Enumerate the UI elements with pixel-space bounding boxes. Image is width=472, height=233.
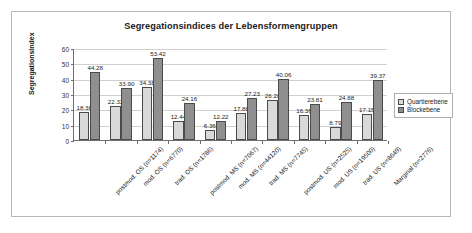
bar-blockebene[interactable]: [121, 88, 132, 140]
x-axis-tick: [325, 141, 326, 144]
bar-group: 22.3233.90: [105, 49, 136, 140]
x-axis-tick: [294, 141, 295, 144]
bar-quartierebene[interactable]: [173, 121, 184, 140]
chart-frame: Segregationsindices der Lebensformengrup…: [11, 11, 451, 217]
y-axis-tick-label: 50: [62, 61, 69, 68]
bar-value-label: 40.06: [276, 71, 291, 78]
bar-group: 8.7924.88: [325, 49, 356, 140]
bar-value-label: 44.28: [87, 64, 102, 71]
legend-swatch-icon: [398, 99, 404, 105]
bar-quartierebene[interactable]: [330, 127, 341, 140]
bar-blockebene[interactable]: [373, 80, 384, 140]
bar-group: 18.3844.28: [74, 49, 105, 140]
bar-quartierebene[interactable]: [267, 100, 278, 140]
plot-area: 605040302010018.3844.2822.3233.9034.3853…: [73, 49, 387, 141]
bar-value-label: 23.81: [307, 96, 322, 103]
bar-blockebene[interactable]: [278, 79, 289, 140]
bar-group: 16.3623.81: [294, 49, 325, 140]
y-axis-tick-label: 20: [62, 107, 69, 114]
bar-value-label: 24.88: [339, 94, 354, 101]
chart-title: Segregationsindices der Lebensformengrup…: [12, 21, 450, 31]
y-axis-tick-label: 0: [65, 138, 69, 145]
x-axis-tick: [357, 141, 358, 144]
bar-value-label: 8.79: [329, 119, 341, 126]
y-axis-tick-label: 10: [62, 122, 69, 129]
legend-label: Blockebene: [407, 106, 440, 113]
x-axis-tick: [168, 141, 169, 144]
bar-blockebene[interactable]: [310, 104, 321, 141]
bar-quartierebene[interactable]: [110, 106, 121, 140]
x-axis-tick: [200, 141, 201, 144]
legend-label: Quartierebene: [407, 98, 448, 105]
bar-quartierebene[interactable]: [142, 87, 153, 140]
y-axis-tick: [71, 141, 74, 142]
bar-group: 17.1539.37: [357, 49, 388, 140]
x-axis-tick: [388, 141, 389, 144]
bar-group: 12.4424.16: [168, 49, 199, 140]
x-axis-tick: [137, 141, 138, 144]
bar-blockebene[interactable]: [153, 58, 164, 140]
bar-value-label: 24.16: [182, 95, 197, 102]
x-axis-tick: [105, 141, 106, 144]
bar-quartierebene[interactable]: [236, 113, 247, 140]
bar-value-label: 6.36: [204, 122, 216, 129]
bar-value-label: 27.23: [244, 90, 259, 97]
bar-group: 34.3853.42: [137, 49, 168, 140]
bar-blockebene[interactable]: [216, 121, 227, 140]
bar-group: 6.3612.22: [200, 49, 231, 140]
y-axis-tick-label: 30: [62, 92, 69, 99]
bar-blockebene[interactable]: [184, 103, 195, 140]
bar-group: 17.8827.23: [231, 49, 262, 140]
bar-blockebene[interactable]: [247, 98, 258, 140]
bar-quartierebene[interactable]: [299, 115, 310, 140]
y-axis-tick-label: 60: [62, 46, 69, 53]
x-axis-tick: [231, 141, 232, 144]
y-axis-title: Segregationsindex: [28, 32, 35, 95]
bar-blockebene[interactable]: [90, 72, 101, 140]
bar-quartierebene[interactable]: [362, 114, 373, 140]
chart-legend: Quartierebene Blockebene: [394, 93, 453, 118]
bar-value-label: 39.37: [370, 72, 385, 79]
legend-item-quartierebene[interactable]: Quartierebene: [398, 98, 448, 105]
bar-quartierebene[interactable]: [205, 130, 216, 140]
bar-value-label: 33.90: [119, 80, 134, 87]
legend-item-blockebene[interactable]: Blockebene: [398, 106, 448, 113]
bar-group: 26.2840.06: [262, 49, 293, 140]
bar-value-label: 53.42: [150, 50, 165, 57]
y-axis-tick-label: 40: [62, 76, 69, 83]
legend-swatch-icon: [398, 107, 404, 113]
bar-value-label: 12.22: [213, 113, 228, 120]
bar-blockebene[interactable]: [341, 102, 352, 140]
bar-quartierebene[interactable]: [79, 112, 90, 140]
x-axis-tick: [262, 141, 263, 144]
